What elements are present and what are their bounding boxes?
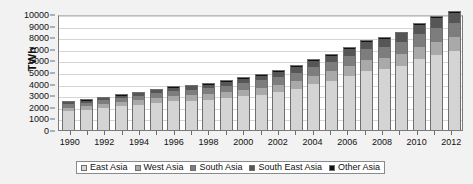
stacked-bar[interactable] [307,59,320,130]
bar-segment[interactable] [168,101,179,130]
bar-column[interactable] [220,16,231,130]
bar-segment[interactable] [431,28,442,42]
stacked-bar[interactable] [150,89,163,130]
stacked-bar[interactable] [115,94,128,130]
stacked-bar[interactable] [62,101,75,130]
bar-column[interactable] [290,16,301,130]
bar-segment[interactable] [344,56,355,66]
stacked-bar[interactable] [430,16,443,130]
bar-segment[interactable] [151,103,162,130]
bar-column[interactable] [115,16,126,130]
bar-column[interactable] [413,16,424,130]
bar-segment[interactable] [431,42,442,55]
stacked-bar[interactable] [237,77,250,130]
bar-segment[interactable] [116,106,127,130]
stacked-bar[interactable] [290,65,303,130]
bar-segment[interactable] [431,55,442,130]
bar-segment[interactable] [273,92,284,130]
bar-segment[interactable] [414,47,425,59]
stacked-bar[interactable] [97,97,110,130]
bar-segment[interactable] [238,96,249,130]
bar-segment[interactable] [326,62,337,71]
stacked-bar[interactable] [360,40,373,130]
stacked-bar[interactable] [395,32,408,130]
bar-segment[interactable] [256,80,267,87]
bar-column[interactable] [185,16,196,130]
bar-segment[interactable] [344,76,355,130]
bar-segment[interactable] [449,51,460,130]
bar-column[interactable] [307,16,318,130]
bar-column[interactable] [378,16,389,130]
bar-segment[interactable] [361,42,372,50]
bar-segment[interactable] [361,71,372,130]
bar-segment[interactable] [256,95,267,130]
bar-segment[interactable] [291,73,302,81]
bar-segment[interactable] [396,54,407,66]
bar-segment[interactable] [414,59,425,130]
bar-column[interactable] [80,16,91,130]
bar-segment[interactable] [361,49,372,60]
bar-segment[interactable] [344,66,355,76]
bar-segment[interactable] [431,18,442,28]
bar-segment[interactable] [308,76,319,85]
stacked-bar[interactable] [202,83,215,130]
bar-column[interactable] [430,16,441,130]
legend-item[interactable]: East Asia [81,163,128,172]
legend-item[interactable]: Other Asia [329,163,380,172]
bar-segment[interactable] [221,98,232,130]
stacked-bar[interactable] [343,47,356,130]
stacked-bar[interactable] [80,99,93,130]
stacked-bar[interactable] [448,11,461,130]
stacked-bar[interactable] [220,80,233,130]
stacked-bar[interactable] [132,92,145,130]
bar-column[interactable] [202,16,213,130]
bar-column[interactable] [62,16,73,130]
legend-item[interactable]: West Asia [135,163,184,172]
bar-segment[interactable] [326,81,337,130]
bar-column[interactable] [325,16,336,130]
bar-segment[interactable] [273,77,284,85]
bar-segment[interactable] [308,84,319,130]
stacked-bar[interactable] [272,70,285,130]
bar-segment[interactable] [414,34,425,47]
bar-segment[interactable] [396,42,407,54]
bar-column[interactable] [167,16,178,130]
bar-column[interactable] [360,16,371,130]
legend-item[interactable]: South Asia [190,163,242,172]
bar-column[interactable] [97,16,108,130]
bar-segment[interactable] [273,85,284,92]
bar-segment[interactable] [308,67,319,76]
bar-segment[interactable] [414,25,425,34]
legend-item[interactable]: South East Asia [249,163,322,172]
bar-segment[interactable] [291,81,302,89]
bar-segment[interactable] [379,47,390,58]
bar-segment[interactable] [256,88,267,95]
bar-segment[interactable] [63,111,74,130]
stacked-bar[interactable] [325,54,338,130]
bar-segment[interactable] [133,105,144,130]
bar-segment[interactable] [379,58,390,69]
bar-segment[interactable] [81,110,92,130]
bar-column[interactable] [395,16,406,130]
bar-column[interactable] [237,16,248,130]
bar-segment[interactable] [449,13,460,23]
bar-segment[interactable] [203,100,214,130]
bar-column[interactable] [272,16,283,130]
bar-segment[interactable] [186,101,197,130]
bar-segment[interactable] [361,60,372,71]
bar-segment[interactable] [344,49,355,56]
bar-segment[interactable] [98,108,109,130]
stacked-bar[interactable] [255,74,268,130]
bar-column[interactable] [150,16,161,130]
stacked-bar[interactable] [167,86,180,130]
bar-column[interactable] [255,16,266,130]
stacked-bar[interactable] [413,23,426,130]
bar-segment[interactable] [396,66,407,130]
bar-segment[interactable] [449,23,460,38]
bar-segment[interactable] [238,83,249,90]
bar-segment[interactable] [379,39,390,47]
bar-segment[interactable] [449,37,460,51]
bar-segment[interactable] [379,69,390,130]
bar-column[interactable] [343,16,354,130]
bar-column[interactable] [448,16,459,130]
